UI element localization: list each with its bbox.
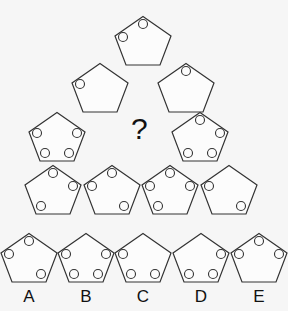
circle-dot-T (108, 169, 117, 178)
circle-dot-LL (41, 149, 50, 158)
circle-dot-UR (69, 182, 78, 191)
option-d-label[interactable]: D (191, 287, 211, 307)
circle-dot-T (49, 169, 58, 178)
circle-dot-LR (37, 270, 46, 279)
pentagon-shape (24, 165, 82, 215)
circle-dot-UL (119, 33, 128, 42)
circle-dot-LL (154, 202, 163, 211)
pentagon-shape (172, 233, 230, 283)
circle-dot-T (182, 67, 191, 76)
option-b-label[interactable]: B (76, 287, 96, 307)
circle-dot-UL (76, 80, 85, 89)
option-a-pentagon[interactable] (0, 233, 58, 283)
circle-dot-UL (205, 182, 214, 191)
pentagon-shape (71, 63, 129, 113)
circle-dot-UR (186, 182, 195, 191)
circle-dot-LL (185, 270, 194, 279)
pentagon-shape (230, 233, 288, 283)
option-c-label[interactable]: C (133, 287, 153, 307)
circle-dot-UL (5, 250, 14, 259)
option-e-pentagon[interactable] (230, 233, 288, 283)
pentagon-shape (114, 16, 172, 66)
circle-dot-UR (217, 250, 226, 259)
pentagon-shape (200, 165, 258, 215)
circle-dot-UR (73, 129, 82, 138)
pyramid-pentagon-7 (83, 165, 141, 215)
circle-dot-T (196, 116, 205, 125)
pyramid-pentagon-6 (24, 165, 82, 215)
circle-dot-T (139, 20, 148, 29)
circle-dot-UR (216, 129, 225, 138)
option-d-pentagon[interactable] (172, 233, 230, 283)
circle-dot-LR (208, 149, 217, 158)
circle-dot-UR (275, 250, 284, 259)
circle-dot-UL (235, 250, 244, 259)
circle-dot-LR (65, 149, 74, 158)
circle-dot-UL (33, 129, 42, 138)
option-c-pentagon[interactable] (114, 233, 172, 283)
circle-dot-LR (151, 270, 160, 279)
pyramid-pentagon-1 (114, 16, 172, 66)
pyramid-pentagon-2 (71, 63, 129, 113)
pentagon-shape (0, 233, 58, 283)
circle-dot-UL (119, 250, 128, 259)
pentagon-shape (157, 63, 215, 113)
pentagon-shape (57, 233, 115, 283)
pyramid-pentagon-3 (157, 63, 215, 113)
question-mark: ? (131, 112, 148, 146)
circle-dot-LR (209, 270, 218, 279)
pyramid-pentagon-9 (200, 165, 258, 215)
pyramid-pentagon-8 (141, 165, 199, 215)
circle-dot-T (25, 237, 34, 246)
option-b-pentagon[interactable] (57, 233, 115, 283)
pyramid-pentagon-5 (171, 112, 229, 162)
circle-dot-UL (62, 250, 71, 259)
circle-dot-UL (146, 182, 155, 191)
circle-dot-LL (70, 270, 79, 279)
pentagon-shape (141, 165, 199, 215)
circle-dot-LL (127, 270, 136, 279)
circle-dot-T (255, 237, 264, 246)
circle-dot-T (166, 169, 175, 178)
pentagon-shape (28, 112, 86, 162)
circle-dot-LR (120, 202, 129, 211)
circle-dot-LL (184, 149, 193, 158)
circle-dot-UR (102, 250, 111, 259)
pentagon-shape (171, 112, 229, 162)
circle-dot-UL (88, 182, 97, 191)
pyramid-pentagon-4 (28, 112, 86, 162)
circle-dot-LR (94, 270, 103, 279)
option-a-label[interactable]: A (19, 287, 39, 307)
circle-dot-LL (37, 202, 46, 211)
pentagon-shape (83, 165, 141, 215)
option-e-label[interactable]: E (249, 287, 269, 307)
circle-dot-LR (237, 202, 246, 211)
pentagon-shape (114, 233, 172, 283)
